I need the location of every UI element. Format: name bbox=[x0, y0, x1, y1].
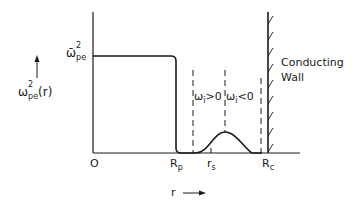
tick-origin: O bbox=[90, 158, 99, 169]
tick-rp: Rp bbox=[170, 158, 183, 169]
up-arrow-icon bbox=[35, 55, 40, 78]
region-growth-label: ωi>0 bbox=[194, 91, 222, 102]
x-axis-label: r bbox=[171, 187, 176, 198]
region-damping-label: ωi<0 bbox=[226, 91, 254, 102]
diagram-canvas bbox=[0, 0, 359, 207]
y-axis-label: ω2pe(r) bbox=[18, 86, 52, 98]
tick-rs: rs bbox=[207, 158, 216, 169]
plateau-label: ω̄2pe bbox=[66, 47, 86, 59]
right-arrow-icon bbox=[183, 191, 206, 196]
tick-rc: Rc bbox=[262, 158, 274, 169]
wall-label: Conducting Wall bbox=[281, 55, 344, 85]
